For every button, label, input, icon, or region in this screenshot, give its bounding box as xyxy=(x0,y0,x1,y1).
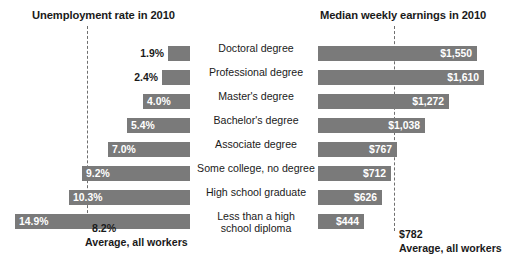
chart-row: 2.4%Professional degree$1,610 xyxy=(0,66,506,90)
chart-row: 1.9%Doctoral degree$1,550 xyxy=(0,42,506,66)
earnings-value-label: $1,610 xyxy=(318,70,479,85)
chart-row: 14.9%Less than a high school diploma$444 xyxy=(0,210,506,234)
unemployment-bar xyxy=(168,46,190,61)
unemployment-value-label: 9.2% xyxy=(86,166,110,181)
category-label: Professional degree xyxy=(196,67,316,79)
left-panel-title: Unemployment rate in 2010 xyxy=(32,9,175,21)
education-unemployment-earnings-chart: Unemployment rate in 2010 Median weekly … xyxy=(0,0,506,266)
chart-row: 4.0%Master's degree$1,272 xyxy=(0,90,506,114)
left-average-value: 8.2% xyxy=(92,222,116,234)
category-label: Some college, no degree xyxy=(196,163,316,175)
category-label: Master's degree xyxy=(196,91,316,103)
left-average-caption: Average, all workers xyxy=(85,236,188,248)
chart-row: 10.3%High school graduate$626 xyxy=(0,186,506,210)
unemployment-value-label: 4.0% xyxy=(147,94,171,109)
earnings-value-label: $767 xyxy=(318,142,392,157)
unemployment-value-label: 2.4% xyxy=(132,70,158,85)
earnings-value-label: $444 xyxy=(318,214,359,229)
category-label: Associate degree xyxy=(196,139,316,151)
chart-row: 7.0%Associate degree$767 xyxy=(0,138,506,162)
category-label: High school graduate xyxy=(196,187,316,199)
chart-row: 9.2%Some college, no degree$712 xyxy=(0,162,506,186)
unemployment-value-label: 5.4% xyxy=(131,118,155,133)
unemployment-value-label: 1.9% xyxy=(138,46,164,61)
unemployment-value-label: 10.3% xyxy=(73,190,102,205)
earnings-value-label: $626 xyxy=(318,190,377,205)
earnings-value-label: $1,550 xyxy=(318,46,472,61)
unemployment-bar xyxy=(162,70,190,85)
earnings-value-label: $1,272 xyxy=(318,94,444,109)
category-label: Less than a high school diploma xyxy=(196,211,316,234)
category-label: Doctoral degree xyxy=(196,43,316,55)
earnings-value-label: $712 xyxy=(318,166,386,181)
chart-row: 5.4%Bachelor's degree$1,038 xyxy=(0,114,506,138)
right-average-value: $782 xyxy=(399,228,423,240)
right-panel-title: Median weekly earnings in 2010 xyxy=(320,9,486,21)
earnings-value-label: $1,038 xyxy=(318,118,420,133)
unemployment-value-label: 14.9% xyxy=(19,214,48,229)
right-average-caption: Average, all workers xyxy=(399,242,502,254)
category-label: Bachelor's degree xyxy=(196,115,316,127)
unemployment-value-label: 7.0% xyxy=(112,142,136,157)
